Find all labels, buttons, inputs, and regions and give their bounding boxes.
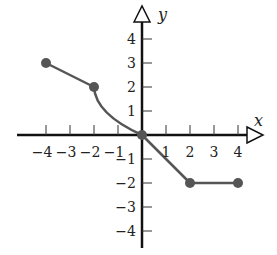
y-tick-label: 3 <box>127 55 136 71</box>
y-tick-label: 1 <box>127 103 136 119</box>
curve-segment <box>46 63 94 87</box>
x-axis-label: x <box>254 111 263 130</box>
x-tick-label: 1 <box>162 144 171 160</box>
y-tick-label: 2 <box>127 79 136 95</box>
x-tick-label: 4 <box>234 144 243 160</box>
axes <box>17 6 263 248</box>
y-axis-arrow-icon <box>134 6 150 22</box>
y-tick-label: −2 <box>115 175 136 191</box>
y-tick-label: −3 <box>115 199 136 215</box>
endpoint-dot <box>41 58 51 68</box>
piecewise-function-graph: −4−3−2−112344321−1−2−3−4 x y <box>0 0 277 255</box>
y-tick-label: −4 <box>115 223 136 239</box>
y-axis-label: y <box>157 5 168 24</box>
y-tick-label: −1 <box>115 151 136 167</box>
x-tick-label: −3 <box>56 144 77 160</box>
x-tick-label: 3 <box>210 144 219 160</box>
y-tick-label: 4 <box>127 31 136 47</box>
endpoint-dot <box>233 178 243 188</box>
endpoint-dot <box>185 178 195 188</box>
x-tick-label: 2 <box>186 144 195 160</box>
x-tick-label: −4 <box>32 144 53 160</box>
x-tick-label: −2 <box>80 144 101 160</box>
endpoint-dot <box>89 82 99 92</box>
endpoint-dot <box>137 130 147 140</box>
